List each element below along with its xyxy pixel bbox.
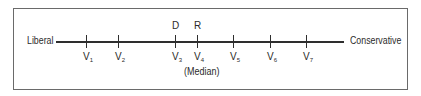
voter-tick-v5 [233, 35, 234, 48]
liberal-label: Liberal [27, 35, 53, 47]
voter-tick-v1 [86, 35, 87, 48]
voter-label-v5: V5 [230, 51, 240, 63]
spectrum-axis-line [56, 41, 344, 43]
median-annotation: (Median) [184, 66, 220, 78]
party-label-democrat: D [172, 20, 179, 32]
voter-tick-v6 [270, 35, 271, 48]
voter-tick-v7 [306, 35, 307, 48]
voter-tick-v2 [118, 35, 119, 48]
voter-tick-v4 [197, 35, 198, 48]
voter-label-v1: V1 [83, 51, 93, 63]
voter-tick-v3 [175, 35, 176, 48]
voter-label-v4: V4 [194, 51, 204, 63]
conservative-label: Conservative [350, 35, 401, 47]
voter-label-v3: V3 [172, 51, 182, 63]
voter-label-v2: V2 [115, 51, 125, 63]
voter-label-v6: V6 [267, 51, 277, 63]
voter-label-v7: V7 [303, 51, 313, 63]
party-label-republican: R [194, 20, 201, 32]
